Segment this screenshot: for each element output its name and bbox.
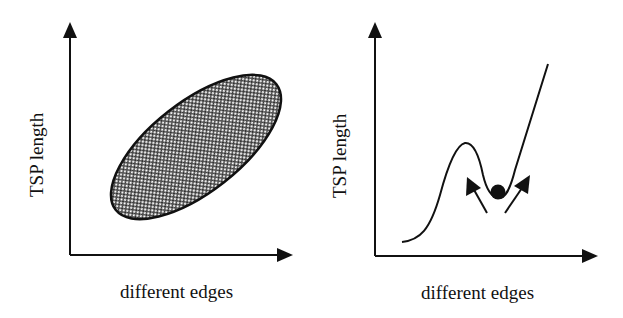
left-x-axis-label: different edges [120,281,233,303]
right-panel [368,22,598,263]
right-y-axis-label: TSP length [329,114,351,198]
left-x-axis-arrow-icon [277,248,293,262]
figure-canvas [0,0,623,318]
right-escape-arrow-icon [514,175,530,194]
right-x-axis-arrow-icon [582,249,598,263]
right-x-axis-label: different edges [421,282,534,304]
hatched-ellipse [88,49,304,246]
ball-icon [491,185,506,200]
left-panel [63,22,304,262]
left-escape-arrow-icon [466,177,481,196]
left-y-axis-arrow-icon [63,22,77,38]
left-y-axis-label: TSP length [26,113,48,197]
left-escape-arrow [473,188,487,213]
right-y-axis-arrow-icon [368,22,382,38]
landscape-curve [402,64,548,242]
